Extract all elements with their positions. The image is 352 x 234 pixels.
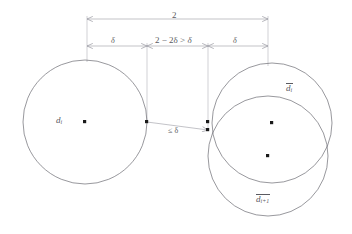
- point-left-edge: [145, 120, 148, 123]
- label-total-width: 2: [172, 11, 177, 20]
- label-left-gap: δ: [111, 37, 115, 45]
- guide-lines: [87, 16, 268, 131]
- label-middle-gap-delta: δ: [187, 35, 191, 45]
- label-upper-disk-subscript: i: [291, 87, 293, 93]
- point-left-center: [83, 120, 86, 123]
- marked-points: [83, 120, 273, 157]
- point-right-upper-edge: [206, 120, 209, 123]
- label-left-disk: di: [56, 116, 62, 126]
- label-upper-disk: di: [286, 83, 292, 94]
- point-lower-center: [266, 154, 269, 157]
- point-upper-center: [270, 121, 273, 124]
- label-upper-disk-overline: di: [286, 83, 292, 94]
- label-distance: ≤ δ: [168, 127, 178, 135]
- label-right-gap: δ: [233, 37, 237, 45]
- geometry-diagram: 2 δ 2 − 2δ > δ δ di ≤ δ di di+1: [0, 0, 352, 234]
- label-lower-disk: di+1: [256, 194, 269, 205]
- label-lower-disk-subscript: i+1: [261, 198, 270, 204]
- label-middle-gap: 2 − 2δ > δ: [155, 36, 192, 45]
- label-left-disk-subscript: i: [61, 119, 63, 125]
- label-lower-disk-overline: di+1: [256, 194, 269, 205]
- point-right-lower-edge: [206, 128, 209, 131]
- label-middle-gap-expression: 2 − 2δ >: [155, 35, 187, 45]
